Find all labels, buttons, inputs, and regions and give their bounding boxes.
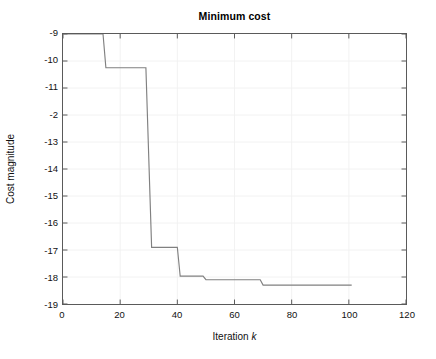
x-tick-label: 0 [42, 310, 82, 320]
y-axis-title-container: Cost magnitude [2, 33, 18, 305]
plot-area [62, 33, 407, 305]
y-tick-label: -17 [34, 246, 58, 256]
y-tick-label: -10 [34, 55, 58, 65]
x-tick-label: 60 [215, 310, 255, 320]
y-tick-label: -19 [34, 300, 58, 310]
chart-title: Minimum cost [62, 10, 407, 22]
x-tick-label: 20 [100, 310, 140, 320]
y-tick-label: -16 [34, 218, 58, 228]
x-tick-label: 80 [272, 310, 312, 320]
x-axis-title-variable: k [251, 331, 256, 342]
x-tick-label: 120 [387, 310, 427, 320]
y-axis-title: Cost magnitude [5, 134, 16, 204]
x-tick-label: 40 [157, 310, 197, 320]
x-axis-title: Iteration k [62, 331, 407, 342]
series-minimum-cost [63, 34, 352, 285]
y-tick-label: -9 [34, 28, 58, 38]
y-tick-label: -18 [34, 273, 58, 283]
y-tick-label: -14 [34, 164, 58, 174]
chart-figure: Minimum cost Cost magnitude -9-10-11-2-1… [0, 0, 436, 359]
y-tick-label: -2 [34, 110, 58, 120]
x-axis-title-text: Iteration [213, 331, 249, 342]
y-tick-label: -15 [34, 191, 58, 201]
x-tick-label: 100 [330, 310, 370, 320]
x-axis-tick-labels: 020406080100120 [62, 310, 407, 324]
gridlines [63, 34, 406, 304]
y-tick-label: -13 [34, 137, 58, 147]
y-axis-tick-labels: -9-10-11-2-13-14-15-16-17-18-19 [30, 33, 58, 305]
data-series-line [63, 34, 352, 285]
plot-canvas [63, 34, 406, 304]
y-tick-label: -11 [34, 82, 58, 92]
